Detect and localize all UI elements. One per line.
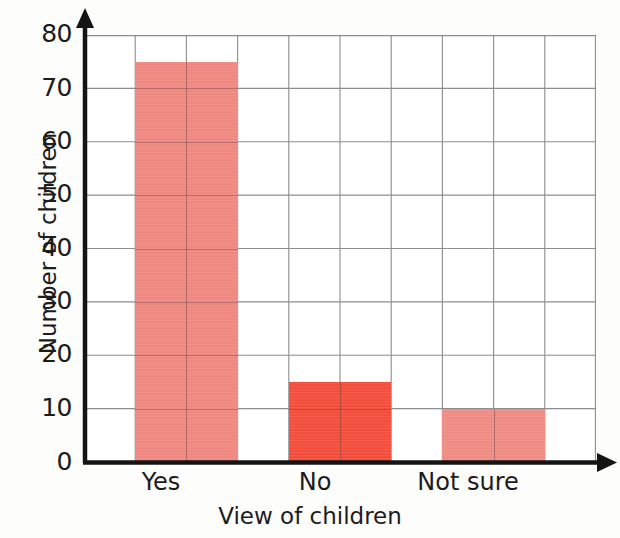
y-tick-70: 70 bbox=[12, 75, 72, 100]
bar-not-sure[interactable] bbox=[442, 409, 544, 462]
y-tick-10: 10 bbox=[12, 395, 72, 420]
y-axis-title: Number of children bbox=[37, 114, 60, 374]
x-tick-yes: Yes bbox=[84, 470, 238, 494]
bar-gridlines bbox=[135, 62, 237, 462]
x-axis-arrow bbox=[597, 453, 617, 472]
x-axis-title: View of children bbox=[0, 505, 620, 528]
bar-yes[interactable] bbox=[135, 62, 237, 462]
y-tick-80: 80 bbox=[12, 21, 72, 46]
y-axis-arrow bbox=[76, 8, 94, 28]
x-tick-no: No bbox=[238, 470, 392, 494]
bar-no[interactable] bbox=[289, 382, 391, 462]
bars-layer bbox=[84, 35, 596, 462]
bar-gridlines bbox=[442, 409, 544, 462]
bar-chart: 80 70 60 50 40 30 20 10 0 Yes No Not sur… bbox=[0, 0, 620, 538]
y-tick-0: 0 bbox=[12, 449, 72, 474]
x-tick-not-sure: Not sure bbox=[391, 470, 545, 494]
plot-area bbox=[84, 35, 596, 462]
bar-gridlines bbox=[289, 382, 391, 462]
